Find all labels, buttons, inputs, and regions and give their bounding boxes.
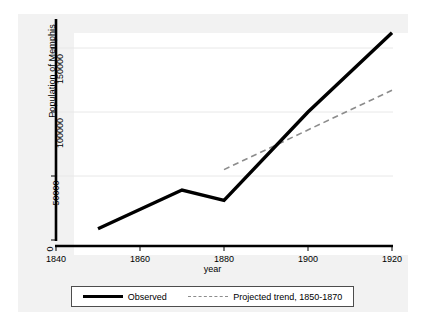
series-line-observed — [98, 33, 392, 229]
legend-entry-projected-trend: Projected trend, 1850-1870 — [188, 292, 342, 302]
dashed-line-key-icon — [188, 296, 228, 297]
gridlines — [56, 48, 393, 176]
series-line-projected-trend — [224, 90, 392, 169]
chart-figure: Population of Memphis 150000 100000 5000… — [0, 0, 425, 325]
chart-legend: Observed Projected trend, 1850-1870 — [71, 286, 354, 307]
legend-label-observed: Observed — [128, 292, 167, 302]
chart-canvas — [0, 0, 425, 325]
legend-entry-observed: Observed — [83, 292, 167, 302]
legend-label-projected-trend: Projected trend, 1850-1870 — [233, 292, 342, 302]
solid-line-key-icon — [83, 295, 123, 298]
